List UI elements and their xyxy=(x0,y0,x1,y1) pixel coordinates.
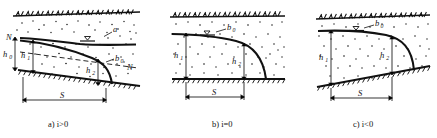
curve-label-b0-lower: b xyxy=(115,53,119,63)
dimension-label-h1-sub-a: 1 xyxy=(27,55,30,61)
panel-c: h 1 h 2 S b 0 c) i<0 xyxy=(316,12,430,129)
dimension-label-h2-sub-c: 2 xyxy=(386,55,389,61)
water-table-triangle-icon-b xyxy=(200,31,215,35)
leader-line-c xyxy=(364,25,374,28)
dimension-label-h1-a: h xyxy=(21,50,25,60)
dimension-h1-b xyxy=(184,33,188,80)
panel-caption-b: b) i=0 xyxy=(212,119,233,129)
panel-caption-c: c) i<0 xyxy=(353,119,373,129)
dimension-h2-b xyxy=(242,43,246,80)
dimension-label-s-c: S xyxy=(358,88,363,98)
diagram-svg: h 0 h 1 h 2 S N N a xyxy=(0,0,437,138)
curve-label-b0-sub-c: 0 xyxy=(380,23,383,29)
dimension-label-h1-c: h xyxy=(319,52,323,62)
leader-line-a-upper xyxy=(104,32,112,37)
ground-surface-line-b xyxy=(170,16,285,17)
dimension-label-h2-sub-b: 2 xyxy=(238,61,241,67)
curve-label-b0-lower-sub: 0 xyxy=(120,58,123,64)
curve-label-a-upper: a xyxy=(113,24,117,34)
dimension-h1-a xyxy=(31,40,35,74)
dimension-label-s-a: S xyxy=(60,90,65,100)
water-table-triangle-icon-a xyxy=(80,37,95,42)
dimension-label-h2-sub-a: 2 xyxy=(92,70,95,76)
dimension-label-h1-b: h xyxy=(174,50,178,60)
dimension-label-h2-b: h xyxy=(232,56,236,66)
dimension-h2-c xyxy=(390,36,394,75)
curve-label-b0-c: b xyxy=(375,18,379,28)
dimension-h1-c xyxy=(329,30,333,86)
dimension-label-h0-sub-a: 0 xyxy=(9,54,12,60)
impervious-base-line-a xyxy=(18,70,140,86)
dimension-label-h0-a: h xyxy=(3,49,7,59)
dimension-label-s-b: S xyxy=(212,87,217,97)
panel-a: h 0 h 1 h 2 S N N a xyxy=(3,9,140,129)
figure-canvas: h 0 h 1 h 2 S N N a xyxy=(0,0,437,138)
drawdown-curve-a-upper xyxy=(20,38,136,45)
drawdown-curve-c xyxy=(318,31,414,70)
dimension-label-h2-c: h xyxy=(380,50,384,60)
curve-label-b0-sub-b: 0 xyxy=(232,27,235,33)
dimension-label-h2-a: h xyxy=(86,65,90,75)
impervious-hatch-c xyxy=(318,67,430,91)
leader-line-b xyxy=(216,29,226,32)
dimension-h0-a xyxy=(13,37,18,71)
panel-b: h 1 h 2 S b 0 b) i=0 xyxy=(170,11,285,129)
dimension-label-h1-sub-b: 1 xyxy=(180,55,183,61)
datum-label-n-left-a: N xyxy=(5,32,13,42)
curve-label-b0-b: b xyxy=(227,22,231,32)
soil-stipple-a xyxy=(16,20,136,77)
dimension-label-h1-sub-c: 1 xyxy=(325,57,328,63)
panel-caption-a: a) i>0 xyxy=(48,119,68,129)
water-table-triangle-icon-c xyxy=(349,27,364,31)
